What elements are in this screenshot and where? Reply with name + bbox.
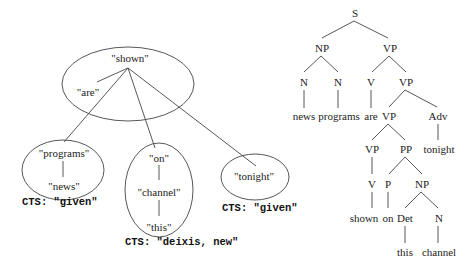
tree-VP: VP (383, 42, 397, 54)
node-are: "are" (77, 86, 99, 98)
edge-shown-tonight (128, 68, 256, 166)
cts-label-tonight: CTS: "given" (222, 202, 298, 214)
tree-shown: shown (350, 212, 379, 224)
tree-on: on (383, 212, 395, 224)
diagram-canvas: "shown" "are" "programs" "news" CTS: "gi… (0, 0, 476, 272)
tree-channel: channel (422, 246, 456, 258)
tree-P: P (385, 178, 391, 190)
tree-VP4: VP (365, 143, 379, 155)
tree-N2: N (334, 76, 342, 88)
tree-tonight: tonight (423, 143, 454, 155)
tree-Adv: Adv (429, 110, 448, 122)
tree-this: this (397, 246, 413, 258)
tree-VP2: VP (399, 76, 413, 88)
tree-PP: PP (400, 143, 412, 155)
node-channel: "channel" (137, 186, 180, 198)
tree-news: news (293, 110, 316, 122)
tree-S: S (352, 7, 358, 19)
node-shown: "shown" (111, 52, 149, 64)
parse-tree: S NP VP N N V VP news programs are VP Ad… (293, 7, 456, 258)
tree-NP: NP (315, 42, 329, 54)
node-programs: "programs" (39, 147, 90, 159)
node-tonight: "tonight" (234, 170, 274, 182)
tree-VP3: VP (382, 110, 396, 122)
tree-programs: programs (318, 110, 360, 122)
tree-are: are (364, 110, 378, 122)
dependency-diagram: "shown" "are" "programs" "news" CTS: "gi… (22, 47, 298, 248)
tree-NP2: NP (415, 178, 429, 190)
node-this: "this" (147, 221, 172, 233)
edge-shown-are (97, 68, 128, 82)
node-on: "on" (149, 152, 169, 164)
tree-V: V (367, 76, 375, 88)
cts-label-programs: CTS: "given" (22, 196, 98, 208)
tree-Det: Det (397, 212, 413, 224)
edge-shown-on (128, 68, 155, 148)
cts-label-on: CTS: "deixis, new" (125, 236, 238, 248)
tree-V2: V (368, 178, 376, 190)
node-news: "news" (48, 180, 80, 192)
tree-N3: N (435, 212, 443, 224)
tree-N1: N (300, 76, 308, 88)
